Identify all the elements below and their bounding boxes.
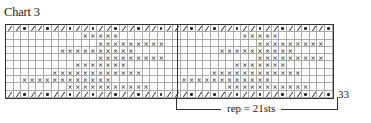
- chart-cell: ×: [249, 83, 257, 90]
- chart-cell: ×: [158, 54, 166, 61]
- top-row-cell: [90, 25, 98, 32]
- chart-cell: ×: [287, 83, 295, 90]
- dot-symbol-icon: [114, 27, 117, 30]
- chart-cell: ×: [211, 76, 219, 83]
- chart-cell: ×: [29, 76, 37, 83]
- chart-cell: [325, 61, 333, 68]
- chart-cell: ×: [105, 76, 113, 83]
- chart-cell: [203, 47, 211, 54]
- chart-cell: [310, 47, 318, 54]
- chart-cell: ×: [264, 40, 272, 47]
- chart-cell: ×: [90, 47, 98, 54]
- dot-symbol-icon: [327, 93, 330, 96]
- chart-cell: [241, 40, 249, 47]
- chart-cell: ×: [135, 83, 143, 90]
- chart-cell: [143, 47, 151, 54]
- slash-symbol-icon: [150, 91, 157, 97]
- chart-cell: ×: [150, 54, 158, 61]
- chart-cell: [196, 61, 204, 68]
- chart-cell: [211, 54, 219, 61]
- chart-cell: ×: [112, 47, 120, 54]
- bottom-row-cell: [82, 91, 90, 98]
- chart-cell: [203, 83, 211, 90]
- chart-cell: [325, 40, 333, 47]
- chart-cell: ×: [135, 54, 143, 61]
- chart-cell: [52, 83, 60, 90]
- chart-cell: [211, 61, 219, 68]
- chart-cell: ×: [82, 76, 90, 83]
- row-number-label: 33: [338, 88, 349, 100]
- chart-cell: ×: [120, 61, 128, 68]
- chart-cell: [317, 69, 325, 76]
- top-row-cell: [287, 25, 295, 32]
- chart-cell: ×: [264, 83, 272, 90]
- chart-cell: [279, 32, 287, 39]
- top-row-cell: [44, 25, 52, 32]
- chart-cell: [36, 47, 44, 54]
- chart-cell: [181, 47, 189, 54]
- chart-cell: [29, 69, 37, 76]
- chart-cell: ×: [128, 54, 136, 61]
- bottom-row-cell: [6, 91, 14, 98]
- chart-cell: ×: [82, 69, 90, 76]
- chart-cell: ×: [150, 40, 158, 47]
- chart-cell: ×: [90, 61, 98, 68]
- top-row-cell: [135, 25, 143, 32]
- chart-cell: [29, 47, 37, 54]
- chart-cell: [67, 32, 75, 39]
- chart-cell: [302, 47, 310, 54]
- top-row-cell: [317, 25, 325, 32]
- bottom-row-cell: [14, 91, 22, 98]
- top-row-cell: [52, 25, 60, 32]
- chart-cell: [188, 47, 196, 54]
- chart-cell: [67, 40, 75, 47]
- chart-cell: [325, 76, 333, 83]
- chart-cell: ×: [105, 61, 113, 68]
- chart-cell: ×: [82, 32, 90, 39]
- top-row-cell: [82, 25, 90, 32]
- top-row-cell: [272, 25, 280, 32]
- chart-cell: [234, 54, 242, 61]
- chart-cell: ×: [59, 76, 67, 83]
- chart-cell: ×: [74, 61, 82, 68]
- dot-symbol-icon: [23, 93, 26, 96]
- dot-symbol-icon: [259, 27, 262, 30]
- chart-cell: ×: [272, 69, 280, 76]
- chart-cell: [181, 54, 189, 61]
- chart-cell: ×: [302, 54, 310, 61]
- chart-cell: ×: [135, 69, 143, 76]
- chart-cell: [158, 83, 166, 90]
- chart-cell: [219, 61, 227, 68]
- chart-cell: [59, 83, 67, 90]
- chart-cell: ×: [249, 69, 257, 76]
- chart-cell: [188, 54, 196, 61]
- slash-symbol-icon: [128, 25, 135, 31]
- chart-cell: ×: [219, 69, 227, 76]
- chart-cell: [36, 40, 44, 47]
- slash-symbol-icon: [105, 91, 112, 97]
- top-row-cell: [188, 25, 196, 32]
- chart-cell: ×: [158, 40, 166, 47]
- chart-cell: ×: [241, 32, 249, 39]
- chart-cell: [44, 40, 52, 47]
- chart-cell: [203, 69, 211, 76]
- chart-cell: ×: [226, 69, 234, 76]
- chart-cell: ×: [90, 69, 98, 76]
- chart-cell: [165, 69, 173, 76]
- chart-cell: ×: [257, 76, 265, 83]
- chart-cell: [135, 47, 143, 54]
- slash-symbol-icon: [74, 25, 81, 31]
- chart-cell: ×: [90, 76, 98, 83]
- chart-cell: [44, 32, 52, 39]
- chart-cell: ×: [120, 83, 128, 90]
- chart-cell: ×: [264, 69, 272, 76]
- chart-cell: ×: [257, 32, 265, 39]
- chart-cell: [21, 83, 29, 90]
- chart-cell: [44, 54, 52, 61]
- chart-cell: ×: [219, 47, 227, 54]
- dot-symbol-icon: [190, 93, 193, 96]
- chart-cell: [196, 40, 204, 47]
- dot-symbol-icon: [114, 93, 117, 96]
- chart-cell: [203, 61, 211, 68]
- chart-cell: ×: [264, 47, 272, 54]
